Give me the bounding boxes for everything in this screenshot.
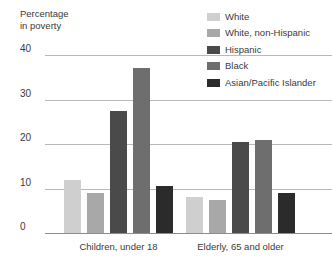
y-axis-tick-label: 20 [20,133,42,143]
bar [209,200,226,233]
bar [64,180,81,233]
legend-swatch-icon [207,29,220,37]
plot-area [45,55,332,233]
legend-item-label: White, non-Hispanic [225,28,310,38]
bar [156,186,173,233]
y-axis-title: Percentage in poverty [20,8,69,31]
legend-item: Hispanic [207,44,316,55]
gridline [45,144,332,145]
legend-item-label: White [225,12,249,22]
bar [186,197,203,233]
y-axis-tick-label: 40 [20,44,42,54]
x-axis-group-label: Children, under 18 [49,241,189,252]
bar [133,68,150,233]
poverty-bar-chart: Percentage in poverty WhiteWhite, non-Hi… [0,0,332,261]
x-axis-group-label: Elderly, 65 and older [171,241,311,252]
y-axis-tick-label: 0 [20,222,42,232]
legend-swatch-icon [207,13,220,21]
gridline [45,189,332,190]
legend-swatch-icon [207,46,220,54]
y-axis-tick-label: 30 [20,89,42,99]
legend-item: White, non-Hispanic [207,28,316,39]
bar [110,111,127,233]
bar [278,193,295,233]
x-axis-baseline [45,233,332,234]
legend-item: White [207,11,316,22]
gridline [45,55,332,56]
bar [255,140,272,233]
legend-item-label: Hispanic [225,45,261,55]
gridline [45,100,332,101]
y-axis-tick-label: 10 [20,178,42,188]
bar [87,193,104,233]
bar [232,142,249,233]
